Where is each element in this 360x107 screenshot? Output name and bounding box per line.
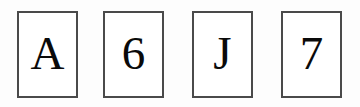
card-label: 7 <box>300 30 324 77</box>
card-row: A 6 J 7 <box>0 0 360 107</box>
card-6[interactable]: 6 <box>103 11 164 98</box>
card-a[interactable]: A <box>17 11 78 98</box>
card-label: A <box>31 30 65 77</box>
card-label: J <box>213 30 231 77</box>
card-7[interactable]: 7 <box>281 11 342 98</box>
card-label: 6 <box>122 30 146 77</box>
card-j[interactable]: J <box>192 11 253 98</box>
